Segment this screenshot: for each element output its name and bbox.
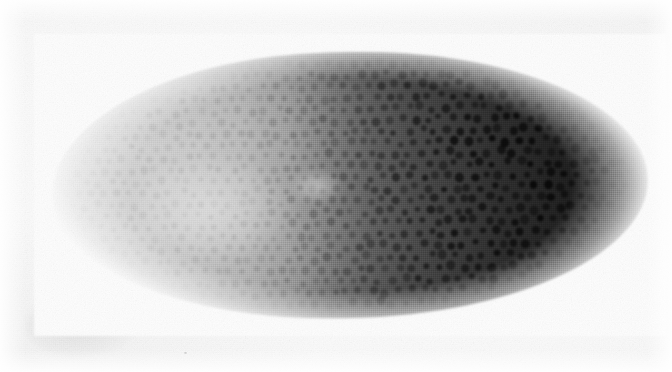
paper-speck-artifact [596,324,598,327]
embryo-cytoplasm-highlight [290,169,344,204]
micrograph-figure: Grayscale micrograph of a Drosophila emb… [0,0,672,372]
embryo-anterior-light-patch [135,158,290,259]
paper-speck-artifact [184,352,187,354]
paper-speck-artifact [252,320,254,322]
embryo-dorsoventral-shading [49,46,650,324]
embryo-specimen [52,52,648,318]
